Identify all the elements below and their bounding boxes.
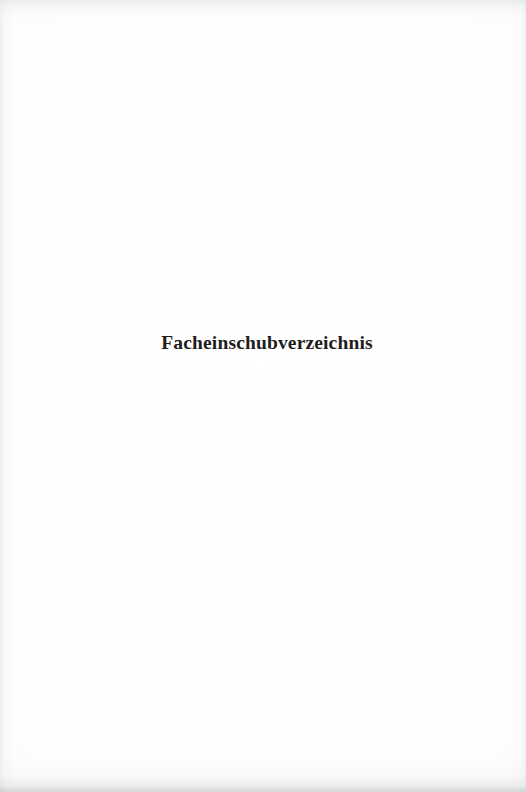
page-title: Facheinschubverzeichnis xyxy=(161,332,372,354)
page-title-block: Facheinschubverzeichnis xyxy=(0,332,526,354)
scanned-page: Facheinschubverzeichnis xyxy=(0,0,526,792)
paper-grain-texture xyxy=(0,0,526,792)
